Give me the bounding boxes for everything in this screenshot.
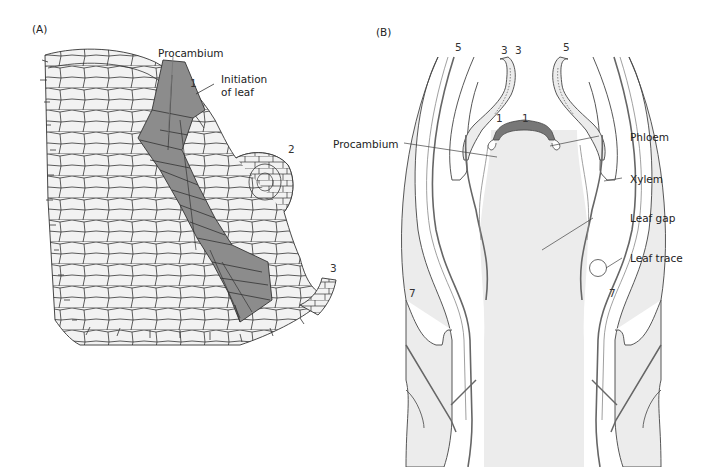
leaf-number-7-left: 7 xyxy=(409,287,416,299)
initiation-label-line1: Initiation xyxy=(221,73,267,85)
leaf-number-5-right: 5 xyxy=(563,41,570,53)
leaf-number-1-right: 1 xyxy=(522,112,529,124)
panel-a-shoot-apex-cells: (A) xyxy=(0,0,356,467)
leaf-number-3-left: 3 xyxy=(501,44,508,56)
xylem-label: Xylem xyxy=(630,173,663,185)
shoot-section-diagram xyxy=(356,0,712,467)
phloem-label: Phloem xyxy=(630,131,669,143)
panel-b-shoot-longitudinal-section: (B) xyxy=(356,0,712,467)
cell-diagram xyxy=(0,0,356,467)
leaf-number-2: 2 xyxy=(288,143,295,155)
leaf-number-1: 1 xyxy=(190,77,197,89)
leaf-trace-circle xyxy=(590,260,607,277)
leaf-number-5-left: 5 xyxy=(455,41,462,53)
initiation-leader xyxy=(196,84,214,94)
leaf-number-1-left: 1 xyxy=(496,112,503,124)
leaf-number-3: 3 xyxy=(330,262,337,274)
procambium-label-a: Procambium xyxy=(158,47,224,59)
leaf-number-3-right: 3 xyxy=(515,44,522,56)
leaf-number-7-right: 7 xyxy=(609,287,616,299)
leaf-gap-label: Leaf gap xyxy=(630,212,675,224)
initiation-label-line2: of leaf xyxy=(221,86,254,98)
procambium-label-b: Procambium xyxy=(333,138,399,150)
central-pith xyxy=(480,130,587,467)
leaf-trace-label: Leaf trace xyxy=(630,252,683,264)
